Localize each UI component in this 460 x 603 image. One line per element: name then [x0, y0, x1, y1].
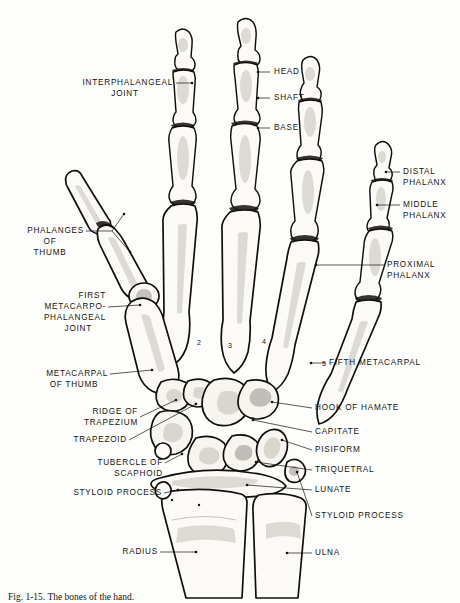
- label-trapezoid: TRAPEZOID: [73, 435, 127, 444]
- label-fifth-metacarpal: FIFTH METACARPAL: [329, 358, 421, 367]
- label-phalanges-of-thumb-line3: THUMB: [34, 248, 67, 257]
- figure-caption: Fig. 1-15. The bones of the hand.: [8, 592, 134, 603]
- label-ulna: ULNA: [315, 548, 340, 557]
- label-tubercle-of-scaphoid-line1: TUBERCLE OF: [97, 458, 163, 467]
- label-base: BASE: [274, 123, 299, 132]
- label-proximal-phalanx-line2: PHALANX: [387, 271, 430, 280]
- label-pisiform: PISIFORM: [315, 445, 361, 454]
- label-first-mcp-line4: JOINT: [65, 324, 92, 333]
- label-metacarpal-of-thumb-line1: METACARPAL: [46, 369, 108, 378]
- label-phalanges-of-thumb-line2: OF: [44, 237, 57, 246]
- label-distal-phalanx-line1: DISTAL: [403, 167, 436, 176]
- finger-4-ring: 4: [262, 57, 324, 393]
- label-interphalangeal-joint-line2: JOINT: [111, 89, 138, 98]
- metacarpal-number-4: 4: [262, 338, 266, 345]
- label-proximal-phalanx-line1: PROXIMAL: [387, 260, 435, 269]
- label-first-mcp-line3: PHALANGEAL: [44, 313, 106, 322]
- label-shaft: SHAFT: [274, 93, 305, 102]
- finger-5-little: 5: [317, 142, 393, 425]
- label-tubercle-of-scaphoid-line2: SCAPHOID: [114, 469, 163, 478]
- label-triquetral: TRIQUETRAL: [315, 465, 374, 474]
- label-radius: RADIUS: [123, 547, 158, 556]
- finger-3-middle: 3: [221, 19, 260, 374]
- label-middle-phalanx-line1: MIDDLE: [403, 200, 438, 209]
- metacarpal-number-5: 5: [322, 360, 326, 367]
- label-styloid-process-radial: STYLOID PROCESS: [73, 488, 162, 497]
- label-ridge-of-trapezium-line2: TRAPEZIUM: [84, 418, 138, 427]
- metacarpal-number-3: 3: [228, 342, 232, 349]
- label-interphalangeal-joint-line1: INTERPHALANGEAL: [83, 78, 173, 87]
- label-lunate: LUNATE: [315, 485, 351, 494]
- label-capitate: CAPITATE: [315, 427, 360, 436]
- label-phalanges-of-thumb-line1: PHALANGES: [27, 226, 84, 235]
- label-ridge-of-trapezium-line1: RIDGE OF: [92, 407, 138, 416]
- label-distal-phalanx-line2: PHALANX: [403, 178, 446, 187]
- thumb: [66, 171, 179, 394]
- label-styloid-process-ulnar: STYLOID PROCESS: [315, 511, 404, 520]
- metacarpal-number-2: 2: [197, 339, 201, 346]
- label-middle-phalanx-line2: PHALANX: [403, 211, 446, 220]
- label-first-mcp-line1: FIRST: [79, 291, 106, 300]
- carpal-bones: [151, 378, 293, 498]
- label-metacarpal-of-thumb-line2: OF THUMB: [50, 380, 99, 389]
- label-first-mcp-line2: METACARPO-: [45, 302, 106, 311]
- hand-skeleton-figure: 2 3 4: [0, 0, 460, 603]
- label-head: HEAD: [274, 67, 300, 76]
- label-hook-of-hamate: HOOK OF HAMATE: [315, 403, 399, 412]
